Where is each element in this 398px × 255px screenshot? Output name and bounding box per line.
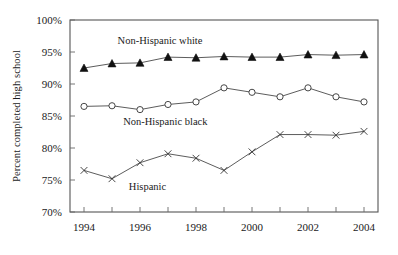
data-point-marker: [165, 101, 171, 107]
data-point-marker: [109, 103, 115, 109]
y-tick-label: 95%: [42, 46, 62, 58]
data-point-marker: [333, 94, 339, 100]
data-point-marker: [193, 99, 199, 105]
y-axis-label: Percent completed high school: [11, 50, 22, 182]
series-1: Non-Hispanic white: [80, 35, 368, 72]
data-point-marker: [361, 99, 367, 105]
data-point-marker: [137, 107, 143, 113]
x-tick-label: 1994: [73, 221, 96, 233]
data-point-marker: [305, 85, 311, 91]
chart-figure: 70%75%80%85%90%95%100%199419961998200020…: [0, 0, 398, 255]
series-3: Hispanic: [81, 128, 368, 192]
series-2: Non-Hispanic black: [81, 85, 367, 127]
x-tick-label: 2002: [297, 221, 319, 233]
series-label-non-hispanic-black: Non-Hispanic black: [123, 116, 208, 127]
series-label-hispanic: Hispanic: [129, 181, 167, 192]
y-tick-label: 100%: [36, 14, 62, 26]
data-point-marker: [221, 85, 227, 91]
y-tick-label: 80%: [42, 142, 62, 154]
y-tick-label: 75%: [42, 174, 62, 186]
data-point-marker: [277, 94, 283, 100]
x-tick-label: 2004: [353, 221, 376, 233]
x-tick-label: 1998: [185, 221, 208, 233]
plot-frame: [70, 20, 378, 212]
y-tick-label: 70%: [42, 206, 62, 218]
y-tick-label: 90%: [42, 78, 62, 90]
series-line: [84, 131, 364, 178]
y-tick-label: 85%: [42, 110, 62, 122]
line-chart-svg: 70%75%80%85%90%95%100%199419961998200020…: [0, 0, 398, 255]
series-label-non-hispanic-white: Non-Hispanic white: [118, 35, 203, 46]
data-point-marker: [81, 103, 87, 109]
x-tick-label: 2000: [241, 221, 264, 233]
data-point-marker: [249, 89, 255, 95]
x-tick-label: 1996: [129, 221, 152, 233]
